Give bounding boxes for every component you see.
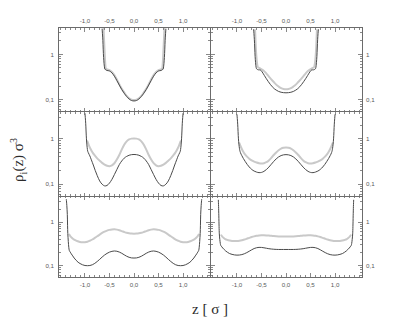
plot-canvas: -1,0-1,0-1,0-1,0-0,5-0,5-0,5-0,50,00,00,… xyxy=(0,0,420,332)
x-tick-label-bottom: -0,5 xyxy=(104,281,115,288)
x-tick-label-top: 0,0 xyxy=(282,17,291,24)
x-tick-label-top: 0,5 xyxy=(154,17,163,24)
y-title-sigma: σ xyxy=(10,143,26,151)
x-axis-title: z [ σ ] xyxy=(192,301,228,317)
y-tick-label-right: 1 xyxy=(366,218,370,225)
y-tick-label-right: 0,1 xyxy=(366,180,375,187)
y-tick-label-left: 0,1 xyxy=(45,96,54,103)
y-axis-title: ρi(z) σ3 xyxy=(8,138,29,182)
x-tick-label-top: -1,0 xyxy=(80,17,91,24)
x-tick-label-bottom: 0,0 xyxy=(130,281,139,288)
svg-text:ρi(z) σ3: ρi(z) σ3 xyxy=(8,138,29,182)
y-tick-label-right: 0,1 xyxy=(366,262,375,269)
x-tick-label-bottom: 0,5 xyxy=(306,281,315,288)
x-tick-label-top: 1,0 xyxy=(331,17,340,24)
x-tick-label-bottom: 1,0 xyxy=(179,281,188,288)
x-tick-label-top: -1,0 xyxy=(232,17,243,24)
density-profile-figure: -1,0-1,0-1,0-1,0-0,5-0,5-0,5-0,50,00,00,… xyxy=(0,0,420,332)
y-tick-label-left: 1 xyxy=(51,218,55,225)
y-tick-label-left: 0,1 xyxy=(45,262,54,269)
x-tick-label-top: 0,5 xyxy=(306,17,315,24)
x-tick-label-bottom: 1,0 xyxy=(331,281,340,288)
y-tick-label-left: 1 xyxy=(51,135,55,142)
x-tick-label-top: 1,0 xyxy=(179,17,188,24)
y-tick-label-right: 1 xyxy=(366,51,370,58)
y-tick-label-right: 0,1 xyxy=(366,96,375,103)
x-tick-label-top: -0,5 xyxy=(256,17,267,24)
x-tick-label-bottom: -1,0 xyxy=(80,281,91,288)
x-tick-label-bottom: 0,5 xyxy=(154,281,163,288)
x-tick-label-top: -0,5 xyxy=(104,17,115,24)
y-title-z: (z) xyxy=(10,151,27,171)
y-title-rho: ρ xyxy=(10,174,26,182)
x-tick-label-bottom: 0,0 xyxy=(282,281,291,288)
x-tick-label-bottom: -1,0 xyxy=(232,281,243,288)
y-title-exponent: 3 xyxy=(8,138,19,143)
x-tick-label-bottom: -0,5 xyxy=(256,281,267,288)
y-tick-label-left: 1 xyxy=(51,51,55,58)
y-tick-label-right: 1 xyxy=(366,135,370,142)
y-tick-label-left: 0,1 xyxy=(45,180,54,187)
x-tick-label-top: 0,0 xyxy=(130,17,139,24)
